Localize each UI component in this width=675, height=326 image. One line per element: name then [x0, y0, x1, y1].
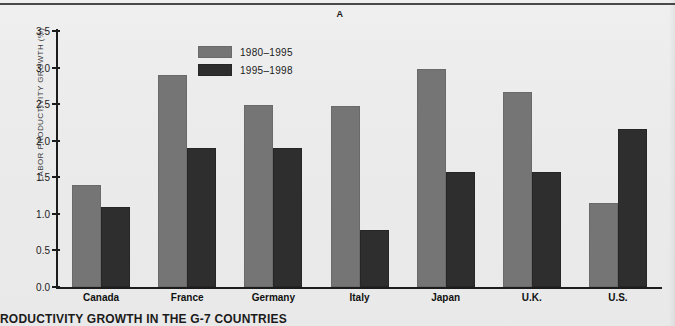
bar-germany-series-1: [244, 105, 273, 287]
y-axis-tick-label: 2.5: [2, 99, 50, 110]
y-axis-tick-label: 0.5: [2, 245, 50, 256]
legend-item: 1980–1995: [198, 44, 293, 60]
bar-france-series-2: [187, 148, 216, 287]
x-axis-label-germany: Germany: [228, 292, 318, 303]
bar-u-k--series-1: [503, 92, 532, 287]
page-edge-shading: [669, 0, 675, 326]
bar-u-s--series-2: [618, 129, 647, 287]
bar-france-series-1: [158, 75, 187, 287]
bar-canada-series-2: [101, 207, 130, 287]
y-axis-tick-label: 2.0: [2, 135, 50, 146]
bar-japan-series-2: [446, 172, 475, 287]
bar-canada-series-1: [72, 185, 101, 287]
bar-italy-series-2: [360, 230, 389, 287]
bar-japan-series-1: [417, 69, 446, 287]
dark-swatch-icon: [198, 64, 232, 76]
x-axis-label-italy: Italy: [315, 292, 405, 303]
x-axis-label-france: France: [142, 292, 232, 303]
legend-item-label: 1995–1998: [240, 65, 293, 76]
legend-item-label: 1980–1995: [240, 47, 293, 58]
plot-area: [58, 31, 668, 287]
bar-germany-series-2: [273, 148, 302, 287]
x-axis-label-canada: Canada: [56, 292, 146, 303]
legend-item: 1995–1998: [198, 62, 293, 78]
x-axis-label-u-s-: U.S.: [573, 292, 663, 303]
y-axis-tick-label: 1.5: [2, 172, 50, 183]
bar-u-k--series-2: [532, 172, 561, 287]
bar-italy-series-1: [331, 106, 360, 287]
y-axis-tick-label: 1.0: [2, 208, 50, 219]
panel-letter-label: A: [320, 9, 360, 19]
gray-swatch-icon: [198, 46, 232, 58]
x-axis-label-japan: Japan: [401, 292, 491, 303]
y-axis-tick-label: 0.0: [2, 282, 50, 293]
figure-caption: RODUCTIVITY GROWTH IN THE G-7 COUNTRIES: [0, 312, 287, 326]
x-axis-line: [56, 287, 662, 289]
chart-legend: 1980–1995 1995–1998: [198, 44, 293, 80]
bar-u-s--series-1: [589, 203, 618, 287]
figure-panel: A LABOR PRODUCTIVITY GROWTH (%) 0.00.51.…: [0, 0, 675, 326]
top-divider-rule: [0, 3, 675, 5]
y-axis-tick-label: 3.5: [2, 26, 50, 37]
x-axis-label-u-k-: U.K.: [487, 292, 577, 303]
y-axis-tick-label: 3.0: [2, 62, 50, 73]
